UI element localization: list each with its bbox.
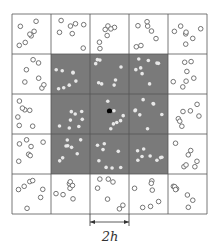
particle-outside xyxy=(81,22,86,27)
particle-outside xyxy=(34,19,39,24)
particle-outside xyxy=(106,177,111,182)
particle-inside xyxy=(74,79,78,83)
particle-outside xyxy=(177,119,182,124)
particle-inside xyxy=(70,110,74,114)
particle-inside xyxy=(160,155,164,159)
particle-inside xyxy=(54,68,58,72)
particle-outside xyxy=(105,197,110,202)
particle-outside xyxy=(171,79,176,84)
particle-inside xyxy=(142,147,146,151)
particle-outside xyxy=(181,109,186,114)
particle-outside xyxy=(186,205,191,210)
particle-outside xyxy=(186,153,191,158)
particle-outside xyxy=(97,40,102,45)
particle-inside xyxy=(160,113,164,117)
particle-outside xyxy=(145,19,150,24)
particle-inside xyxy=(140,72,144,76)
particle-outside xyxy=(29,144,34,149)
particle-outside xyxy=(36,76,41,81)
particle-outside xyxy=(103,27,108,32)
particle-outside xyxy=(17,99,22,104)
query-point xyxy=(107,108,112,113)
particle-inside xyxy=(57,87,61,91)
particle-outside xyxy=(178,24,183,29)
particle-inside xyxy=(119,65,123,69)
particle-inside xyxy=(112,109,116,113)
particle-outside xyxy=(98,46,103,51)
particle-outside xyxy=(183,42,188,47)
particle-inside xyxy=(110,166,114,170)
particle-outside xyxy=(184,30,189,35)
particle-inside xyxy=(71,71,75,75)
particle-outside xyxy=(198,26,203,31)
particle-outside xyxy=(17,123,22,128)
particle-inside xyxy=(152,102,156,106)
particle-outside xyxy=(149,181,154,186)
particle-inside xyxy=(114,78,118,82)
particle-outside xyxy=(156,199,161,204)
particle-outside xyxy=(17,43,22,48)
particle-inside xyxy=(67,126,71,130)
particle-inside xyxy=(64,144,68,148)
particle-outside xyxy=(149,29,154,34)
particle-outside xyxy=(188,109,193,114)
particle-inside xyxy=(103,142,107,146)
particle-inside xyxy=(73,112,77,116)
particle-inside xyxy=(96,144,100,148)
particle-outside xyxy=(70,31,75,36)
particle-inside xyxy=(94,62,98,66)
particle-inside xyxy=(148,154,152,158)
particle-inside xyxy=(112,122,116,126)
particle-outside xyxy=(150,188,155,193)
particle-outside xyxy=(189,59,194,64)
particle-outside xyxy=(173,187,178,192)
particle-outside xyxy=(61,192,66,197)
particle-outside xyxy=(172,29,177,34)
particle-outside xyxy=(16,115,21,120)
particle-outside xyxy=(20,106,25,111)
particle-inside xyxy=(148,82,152,86)
particle-outside xyxy=(98,177,103,182)
particle-inside xyxy=(155,158,159,162)
particle-outside xyxy=(197,114,202,119)
particle-inside xyxy=(77,125,81,129)
particle-outside xyxy=(27,108,32,113)
particle-outside xyxy=(57,30,62,35)
particle-inside xyxy=(66,138,70,142)
particle-outside xyxy=(117,207,122,212)
particle-inside xyxy=(140,155,144,159)
particle-outside xyxy=(68,24,73,29)
arrowhead-left xyxy=(90,220,95,224)
particle-outside xyxy=(73,21,78,26)
particle-outside xyxy=(68,179,73,184)
particle-outside xyxy=(31,57,36,62)
particle-inside xyxy=(62,86,66,90)
particle-outside xyxy=(24,67,29,72)
particle-outside xyxy=(23,40,28,45)
particle-inside xyxy=(70,146,74,150)
particle-outside xyxy=(28,32,33,37)
particle-inside xyxy=(97,159,101,163)
particle-inside xyxy=(109,127,113,131)
particle-outside xyxy=(134,44,139,49)
particle-inside xyxy=(119,119,123,123)
particle-outside xyxy=(185,69,190,74)
particle-outside xyxy=(30,124,35,129)
particle-inside xyxy=(119,166,123,170)
particle-outside xyxy=(191,76,196,81)
particle-outside xyxy=(111,180,116,185)
particle-outside xyxy=(139,43,144,48)
particle-inside xyxy=(133,109,137,113)
particle-inside xyxy=(116,150,120,154)
particle-outside xyxy=(54,191,59,196)
particle-inside xyxy=(141,98,145,102)
particle-inside xyxy=(134,68,138,72)
particle-outside xyxy=(71,197,76,202)
particle-outside xyxy=(59,18,64,23)
particle-inside xyxy=(136,158,140,162)
particle-outside xyxy=(23,80,28,85)
particle-outside xyxy=(36,61,41,66)
particle-outside xyxy=(109,27,114,32)
particle-inside xyxy=(139,66,143,70)
particle-outside xyxy=(173,141,178,146)
